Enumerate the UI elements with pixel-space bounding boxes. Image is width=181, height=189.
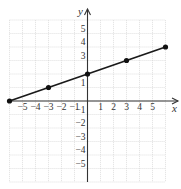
data-point	[163, 44, 168, 49]
x-tick-label: −5	[17, 102, 27, 112]
x-axis-label: x	[171, 102, 177, 114]
y-tick-label: 1	[81, 78, 86, 88]
y-axis	[85, 9, 91, 182]
y-tick-label: 3	[81, 51, 86, 61]
x-tick-label: −2	[56, 102, 66, 112]
y-tick-label: 4	[81, 37, 86, 47]
x-tick-label: 3	[124, 102, 129, 112]
y-tick-label: −2	[75, 118, 85, 128]
y-tick-labels: 5431−1−2−3−4−5	[75, 24, 85, 169]
y-tick-label: 5	[81, 24, 86, 34]
data-point	[124, 58, 129, 63]
y-tick-label: −3	[75, 132, 85, 142]
x-tick-label: 2	[111, 102, 116, 112]
data-point	[7, 98, 12, 103]
y-tick-label: −5	[75, 159, 85, 169]
coordinate-plane: −5−4−3−2−112345 5431−1−2−3−4−5 x y	[0, 0, 181, 189]
y-axis-label: y	[77, 5, 83, 17]
data-point	[46, 85, 51, 90]
y-tick-label: −1	[75, 105, 85, 115]
x-tick-label: −4	[30, 102, 40, 112]
x-tick-labels: −5−4−3−2−112345	[17, 102, 155, 112]
x-tick-label: 4	[137, 102, 142, 112]
x-tick-label: −3	[43, 102, 53, 112]
x-tick-label: 5	[150, 102, 155, 112]
data-point	[85, 71, 90, 76]
y-tick-label: −4	[75, 145, 85, 155]
x-tick-label: 1	[98, 102, 103, 112]
